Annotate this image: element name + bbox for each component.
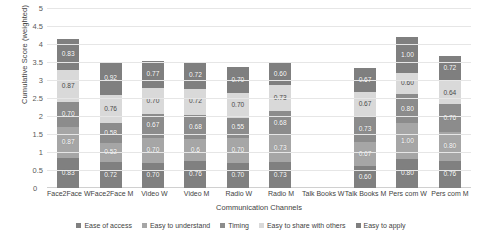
bar-segment-value-label: 0.60: [359, 174, 372, 181]
y-axis-tick-label: 3.5: [33, 58, 43, 67]
bar-segment[interactable]: 0.70: [227, 163, 249, 188]
bar-segment-value-label: 0.73: [359, 126, 372, 133]
y-axis-tick-label: 4.5: [33, 22, 43, 31]
bar-segment[interactable]: 0.70: [57, 102, 79, 127]
bar-segment-value-label: 0.70: [231, 172, 244, 179]
bar-segment[interactable]: 0.73: [269, 162, 291, 188]
legend-item[interactable]: Easy to understand: [142, 222, 210, 229]
x-axis-tick-label: Radio W: [218, 190, 260, 197]
bar-segment[interactable]: 0.76: [439, 104, 461, 131]
legend-label: Easy to share with others: [267, 222, 346, 229]
gridline: [47, 170, 471, 171]
bar-segment-value-label: 0.76: [104, 106, 117, 113]
bar-segment-value-label: 0.73: [274, 172, 287, 179]
bar-segment[interactable]: 0.73: [354, 116, 376, 142]
gridline: [47, 134, 471, 135]
bar-segment[interactable]: 0.76: [184, 161, 206, 188]
stacked-bar[interactable]: 0.801.000.800.601.00: [396, 37, 418, 188]
bar-segment[interactable]: 0.92: [100, 62, 122, 95]
chart-legend: Ease of accessEasy to understandTimingEa…: [0, 222, 482, 229]
y-axis-tick-label: 5: [39, 4, 43, 13]
bar-segment[interactable]: 0.58: [100, 123, 122, 144]
bar-segment-value-label: 0.68: [189, 124, 202, 131]
bar-segment[interactable]: 0.70: [142, 88, 164, 113]
stacked-bar[interactable]: 0.760.800.760.640.72: [439, 56, 461, 188]
bar-segment-value-label: 0.87: [62, 83, 75, 90]
bar-segment[interactable]: 0.67: [354, 142, 376, 166]
bar-segment[interactable]: 0.72: [184, 63, 206, 89]
y-axis-tick-label: 1: [39, 148, 43, 157]
bar-segment[interactable]: 0.6: [184, 139, 206, 161]
bar-segment[interactable]: 1.00: [396, 123, 418, 159]
x-axis-tick-labels: Face2Face WFace2Face MVideo WVideo MRadi…: [47, 190, 471, 197]
legend-item[interactable]: Timing: [220, 222, 249, 229]
bar-segment[interactable]: 0.72: [439, 56, 461, 82]
bar-segment-value-label: 0.55: [231, 124, 244, 131]
legend-label: Easy to apply: [364, 222, 406, 229]
bar-segment-value-label: 0.77: [147, 71, 160, 78]
bar-segment[interactable]: 0.76: [439, 161, 461, 188]
plot-area: 0.830.870.700.870.830.720.520.580.760.92…: [47, 8, 471, 188]
bar-segment-value-label: 0.72: [104, 172, 117, 179]
bar-segment[interactable]: 0.76: [100, 95, 122, 122]
bar-segment[interactable]: 0.60: [396, 73, 418, 95]
bar-segment[interactable]: 0.77: [142, 61, 164, 89]
y-axis-tick-label: 0.5: [33, 166, 43, 175]
y-axis-tick-label: 2: [39, 112, 43, 121]
bar-segment-value-label: 0.68: [274, 120, 287, 127]
bar-segment-value-label: 0.80: [443, 143, 456, 150]
bar-segment-value-label: 0.76: [189, 171, 202, 178]
legend-item[interactable]: Easy to share with others: [259, 222, 346, 229]
bar-segment[interactable]: 0.70: [142, 138, 164, 163]
bar-segment[interactable]: 0.70: [227, 138, 249, 163]
bar-segment[interactable]: 0.60: [269, 63, 291, 85]
gridline: [47, 80, 471, 81]
legend-item[interactable]: Easy to apply: [356, 222, 406, 229]
legend-swatch-icon: [259, 223, 264, 228]
x-axis-tick-label: Pers com M: [429, 190, 471, 197]
bar-segment[interactable]: 0.87: [57, 127, 79, 158]
gridline: [47, 152, 471, 153]
legend-swatch-icon: [76, 223, 81, 228]
bar-segment-value-label: 0.70: [147, 172, 160, 179]
bar-segment-value-label: 0.72: [189, 98, 202, 105]
bar-segment[interactable]: 0.70: [142, 163, 164, 188]
gridline: [47, 98, 471, 99]
legend-swatch-icon: [220, 223, 225, 228]
legend-swatch-icon: [356, 223, 361, 228]
bar-segment[interactable]: 0.68: [184, 115, 206, 139]
y-axis-title: Cumulative Score (weighted): [20, 0, 29, 135]
bar-segment-value-label: 1.00: [401, 52, 414, 59]
y-axis-tick-label: 1.5: [33, 130, 43, 139]
gridline: [47, 8, 471, 9]
bar-segment-value-label: 0.67: [147, 122, 160, 129]
bar-segment-value-label: 0.64: [443, 90, 456, 97]
legend-label: Timing: [228, 222, 249, 229]
bar-segment[interactable]: 1.00: [396, 37, 418, 73]
bar-segment-value-label: 0.72: [443, 65, 456, 72]
bar-segment[interactable]: 0.70: [227, 93, 249, 118]
bar-segment-value-label: 0.73: [274, 145, 287, 152]
bar-segment-value-label: 0.87: [62, 139, 75, 146]
y-axis-tick-label: 2.5: [33, 94, 43, 103]
bar-segment[interactable]: 0.68: [269, 111, 291, 135]
bar-segment[interactable]: 0.73: [269, 135, 291, 161]
bar-segment[interactable]: 0.67: [354, 92, 376, 116]
bar-segment[interactable]: 0.72: [184, 89, 206, 115]
x-axis-tick-label: Video M: [176, 190, 218, 197]
bar-segment[interactable]: 0.72: [100, 162, 122, 188]
x-axis-tick-label: Talk Books W: [302, 190, 344, 197]
bar-segment[interactable]: 0.83: [57, 158, 79, 188]
bar-segment[interactable]: 0.64: [439, 81, 461, 104]
legend-item[interactable]: Ease of access: [76, 222, 131, 229]
x-axis-tick-label: Pers com W: [387, 190, 429, 197]
x-axis-tick-label: Radio M: [260, 190, 302, 197]
stacked-bar-chart: Cumulative Score (weighted) 0.830.870.70…: [0, 0, 482, 239]
y-axis-tick-label: 3: [39, 76, 43, 85]
bar-segment[interactable]: 0.80: [439, 132, 461, 161]
y-axis-tick-label: 4: [39, 40, 43, 49]
y-axis-zero-tick: 0: [33, 184, 37, 193]
bar-segment-value-label: 0.60: [274, 71, 287, 78]
bar-segment[interactable]: 0.87: [57, 70, 79, 101]
bar-segment[interactable]: 0.80: [396, 159, 418, 188]
